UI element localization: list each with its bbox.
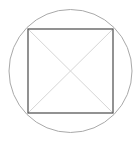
geometry-figure-svg [0, 0, 139, 142]
geometry-figure-canvas [0, 0, 139, 142]
